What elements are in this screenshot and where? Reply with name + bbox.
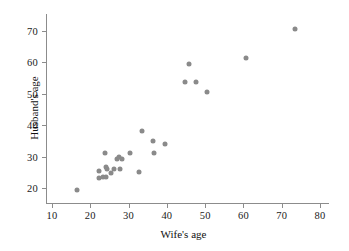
- y-tick-label: 70: [16, 26, 38, 37]
- y-axis-label: Husband's age: [28, 76, 40, 139]
- data-point: [74, 187, 79, 192]
- x-axis-label: Wife's age: [0, 228, 349, 240]
- y-tick-mark: [42, 157, 46, 158]
- data-point: [96, 169, 101, 174]
- x-tick-label: 50: [200, 210, 211, 221]
- data-point: [136, 169, 141, 174]
- x-tick-mark: [205, 204, 206, 208]
- x-tick-mark: [167, 204, 168, 208]
- x-tick-mark: [52, 204, 53, 208]
- x-tick-mark: [90, 204, 91, 208]
- y-tick-mark: [42, 94, 46, 95]
- data-point: [163, 142, 168, 147]
- data-point: [103, 175, 108, 180]
- y-tick-label: 60: [16, 57, 38, 68]
- x-tick-label: 10: [47, 210, 58, 221]
- data-point: [186, 62, 191, 67]
- data-point: [117, 166, 122, 171]
- data-point: [128, 151, 133, 156]
- x-tick-label: 80: [315, 210, 326, 221]
- x-tick-label: 70: [276, 210, 287, 221]
- data-point: [205, 89, 210, 94]
- x-axis-line: [46, 203, 329, 204]
- x-tick-label: 60: [238, 210, 249, 221]
- y-axis-line: [46, 14, 47, 204]
- data-point: [112, 167, 117, 172]
- data-point: [140, 128, 145, 133]
- data-point: [103, 150, 108, 155]
- x-tick-mark: [282, 204, 283, 208]
- x-tick-mark: [129, 204, 130, 208]
- data-point: [152, 151, 157, 156]
- data-point: [182, 80, 187, 85]
- y-tick-mark: [42, 31, 46, 32]
- x-tick-mark: [243, 204, 244, 208]
- y-tick-mark: [42, 62, 46, 63]
- x-tick-mark: [320, 204, 321, 208]
- data-point: [120, 157, 125, 162]
- y-tick-mark: [42, 125, 46, 126]
- y-tick-label: 20: [16, 183, 38, 194]
- data-point: [193, 80, 198, 85]
- data-point: [244, 56, 249, 61]
- scatter-plot-figure: 1020304050607080 203040506070 Wife's age…: [0, 0, 349, 251]
- plot-area: 1020304050607080 203040506070 Wife's age…: [0, 0, 349, 251]
- y-tick-mark: [42, 188, 46, 189]
- data-point: [293, 27, 298, 32]
- x-axis-label-text: Wife's age: [161, 228, 207, 240]
- x-tick-label: 30: [123, 210, 134, 221]
- data-point: [151, 139, 156, 144]
- y-tick-label: 30: [16, 151, 38, 162]
- x-tick-label: 20: [85, 210, 96, 221]
- x-tick-label: 40: [161, 210, 172, 221]
